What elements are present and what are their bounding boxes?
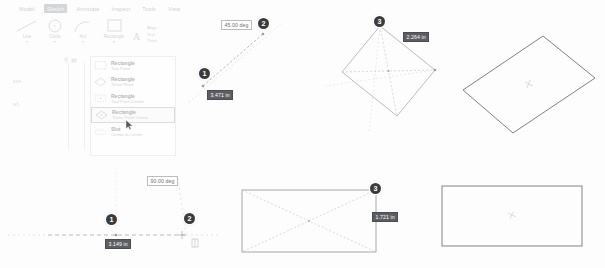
rectangle-icon <box>99 17 129 34</box>
center-point-icon <box>508 212 516 219</box>
rectangle-gallery-dropdown[interactable]: Rectangle Two Point Rectangle Three Poin… <box>90 56 176 156</box>
gallery-item-rectangle-three-point-center[interactable]: Rectangle Three Point Center <box>91 107 175 124</box>
figure-axis-aligned-rectangle-result <box>438 182 598 254</box>
browser-panel: ⚲ ▤ ture w1 <box>8 56 86 154</box>
panel-divider-2 <box>84 62 85 150</box>
browser-node-2[interactable]: w1 <box>13 102 86 107</box>
tool-rectangle-caret[interactable]: ▾ <box>99 40 129 44</box>
length-dimension-field[interactable]: 3.471 in <box>207 90 233 100</box>
text-a-icon: A <box>133 27 141 44</box>
arc-icon <box>71 17 95 34</box>
ribbon-tab-sketch[interactable]: Sketch <box>44 4 68 13</box>
finished-rotated-rectangle <box>455 28 600 138</box>
ribbon-tab-inspect[interactable]: Inspect <box>109 4 134 13</box>
length-dimension-field[interactable]: 3.149 in <box>105 239 131 249</box>
browser-node-1[interactable]: ture <box>13 79 86 84</box>
finished-rectangle <box>438 182 598 254</box>
figure-rotated-rectangle-result <box>455 28 600 138</box>
rect-three-point-icon <box>94 76 107 87</box>
callout-badge-3: 3 <box>374 16 385 27</box>
width-dimension-field[interactable]: 2.264 in <box>403 32 429 42</box>
tool-line[interactable]: Line ▾ <box>15 17 39 44</box>
mouse-cursor-icon <box>126 120 132 128</box>
slot-center-icon <box>94 126 107 137</box>
ribbon-tab-bar: Model Sketch Annotate Inspect Tools View <box>12 4 172 13</box>
callout-badge-1: 1 <box>106 214 117 225</box>
tool-arc[interactable]: Arc ▾ <box>71 17 95 44</box>
tool-line-caret[interactable]: ▾ <box>15 40 39 44</box>
screenshot-canvas: Model Sketch Annotate Inspect Tools View… <box>0 0 605 268</box>
rect-two-point-center-icon <box>94 93 107 104</box>
gallery-item-subtitle: Two Point <box>111 66 135 71</box>
ribbon-tool-group: Line ▾ Circle ▾ Arc ▾ R <box>12 17 172 44</box>
tool-circle-caret[interactable]: ▾ <box>43 40 67 44</box>
gallery-item-subtitle: Three Point <box>111 82 135 87</box>
callout-badge-1: 1 <box>199 68 210 79</box>
tool-arc-caret[interactable]: ▾ <box>71 40 95 44</box>
line-icon <box>15 17 39 34</box>
gallery-item-rectangle-three-point[interactable]: Rectangle Three Point <box>91 74 175 91</box>
ribbon-text-group: Align Text Point <box>147 25 157 44</box>
rect-three-point-center-icon <box>95 110 108 121</box>
gallery-item-slot-center-to-center[interactable]: Slot Center to Center <box>91 123 175 140</box>
height-dimension-field[interactable]: 1.721 in <box>372 212 398 222</box>
angle-dimension-field[interactable]: 90.00 deg <box>147 176 178 186</box>
ribbon-tab-view[interactable]: View <box>165 4 183 13</box>
ribbon-tab-annotate[interactable]: Annotate <box>73 4 102 13</box>
panel-divider-1 <box>68 62 69 150</box>
ribbon-tab-tools[interactable]: Tools <box>139 4 159 13</box>
svg-text:A: A <box>133 31 141 42</box>
tool-text-glyph[interactable]: A <box>133 27 141 44</box>
figure-two-point-center-step-3: 3 1.721 in <box>234 172 404 260</box>
gallery-item-subtitle: Center to Center <box>111 132 143 137</box>
ribbon-tab-model[interactable]: Model <box>16 4 38 13</box>
figure-two-point-center-step-1-2: 1 2 90.00 deg 3.149 in <box>8 168 218 263</box>
callout-badge-2: 2 <box>258 18 269 29</box>
browser-search-row: ⚲ ▤ <box>8 56 86 63</box>
rect-two-point-icon <box>94 60 107 71</box>
center-point-icon <box>525 80 533 88</box>
snap-glyph-icon <box>191 238 199 248</box>
circle-icon <box>43 17 67 34</box>
gallery-item-rectangle-two-point[interactable]: Rectangle Two Point <box>91 57 175 74</box>
callout-badge-2: 2 <box>184 213 195 224</box>
figure-three-point-center-step-1-2: 1 2 45.00 deg 3.471 in <box>185 10 295 110</box>
angle-dimension-field[interactable]: 45.00 deg <box>221 20 252 30</box>
callout-badge-3: 3 <box>370 183 381 194</box>
ribbon: Model Sketch Annotate Inspect Tools View… <box>12 4 172 56</box>
figure-three-point-center-step-3: 3 2.264 in <box>325 8 455 133</box>
tool-rectangle[interactable]: Rectangle ▾ <box>99 17 129 44</box>
tool-circle[interactable]: Circle ▾ <box>43 17 67 44</box>
gallery-item-rectangle-two-point-center[interactable]: Rectangle Two Point Center <box>91 90 175 107</box>
gallery-item-title: Rectangle <box>111 60 135 66</box>
gallery-item-subtitle: Two Point Center <box>111 99 144 104</box>
tool-align[interactable]: Align <box>147 25 157 31</box>
filter-icon[interactable]: ▤ <box>71 56 77 63</box>
sketch-geometry <box>325 8 455 133</box>
tool-point[interactable]: Point <box>147 38 157 44</box>
